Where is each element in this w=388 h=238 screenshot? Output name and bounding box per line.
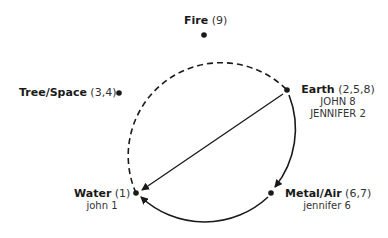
label-earth: Earth (2,5,8) JOHN 8 JENNIFER 2 [297, 83, 379, 120]
node-dot-earth [284, 87, 290, 93]
person-number: JOHN 8 [297, 96, 379, 108]
label-tree-space: Tree/Space (3,4) [19, 86, 116, 99]
label-metal-air: Metal/Air (6,7) jennifer 6 [285, 187, 369, 212]
person-number: john 1 [74, 200, 130, 212]
arrow-metal-to-water [141, 197, 268, 222]
node-dot-water [133, 190, 139, 196]
node-dot-fire [201, 32, 207, 38]
label-fire: Fire (9) [184, 14, 227, 27]
node-numbers: (1) [115, 187, 131, 200]
person-number: JENNIFER 2 [297, 108, 379, 120]
node-dot-metal [268, 190, 274, 196]
node-numbers: (3,4) [90, 86, 116, 99]
node-name: Earth [301, 83, 334, 96]
node-name: Fire [184, 14, 208, 27]
node-name: Water [74, 187, 111, 200]
node-name: Tree/Space [19, 86, 87, 99]
arrow-earth-to-water [142, 94, 283, 190]
node-dot-tree [116, 90, 122, 96]
node-name: Metal/Air [285, 187, 342, 200]
node-numbers: (6,7) [345, 187, 371, 200]
node-numbers: (2,5,8) [338, 83, 375, 96]
arrow-earth-to-metal [275, 95, 295, 187]
dashed-arc-water-fire-earth [128, 63, 287, 193]
label-water: Water (1) john 1 [74, 187, 130, 212]
node-numbers: (9) [212, 14, 228, 27]
person-number: jennifer 6 [285, 200, 369, 212]
